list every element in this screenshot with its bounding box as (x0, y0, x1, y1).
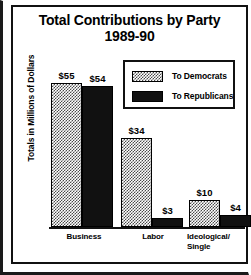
bar-labor-democrats (121, 138, 152, 227)
bar-business-democrats (51, 83, 82, 227)
bar-value-labor-democrats: $34 (121, 125, 152, 136)
bar-wrap-labor-democrats: $34 (121, 138, 152, 227)
bar-business-republicans (82, 86, 113, 227)
bar-wrap-labor-republicans: $3 (152, 218, 183, 227)
bar-ideological-democrats (189, 200, 220, 227)
x-axis-line (49, 227, 245, 229)
bar-wrap-ideological-democrats: $10 (189, 200, 220, 227)
chart-inner-frame: Total Contributions by Party 1989-90 Tot… (11, 5, 248, 264)
y-axis-label: Totals in Millions of Dollars (26, 38, 36, 178)
chart-subtitle: 1989-90 (13, 28, 246, 44)
bar-wrap-ideological-republicans: $4 (220, 215, 249, 227)
plot-area: $55 $54 $34 $3 (49, 69, 245, 229)
x-tick-line-business-1: Business (49, 232, 119, 242)
bar-wrap-business-republicans: $54 (82, 86, 113, 227)
bar-value-ideological-republicans: $4 (220, 202, 249, 213)
bar-value-ideological-democrats: $10 (189, 187, 220, 198)
bar-group-business: $55 $54 (51, 83, 113, 227)
x-tick-label-business: Business (49, 232, 119, 242)
bar-group-labor: $34 $3 (121, 138, 183, 227)
x-tick-label-labor: Labor (119, 232, 187, 242)
x-tick-label-ideological: Ideological/ Single (187, 232, 249, 252)
bar-value-labor-republicans: $3 (152, 205, 183, 216)
chart-figure: Total Contributions by Party 1989-90 Tot… (0, 0, 249, 275)
bar-value-business-republicans: $54 (82, 73, 113, 84)
bar-labor-republicans (152, 218, 183, 227)
x-tick-line-ideological-1: Ideological/ (187, 232, 249, 242)
x-tick-line-labor-1: Labor (119, 232, 187, 242)
bar-wrap-business-democrats: $55 (51, 83, 82, 227)
page-title: Total Contributions by Party (13, 12, 246, 28)
bar-value-business-democrats: $55 (51, 70, 82, 81)
x-tick-line-ideological-2: Single (187, 242, 249, 252)
chart-title-block: Total Contributions by Party 1989-90 (13, 12, 246, 44)
x-axis-tick-labels: Business Labor Ideological/ Single (49, 232, 245, 266)
bar-group-ideological: $10 $4 (189, 200, 249, 227)
bar-ideological-republicans (220, 215, 249, 227)
